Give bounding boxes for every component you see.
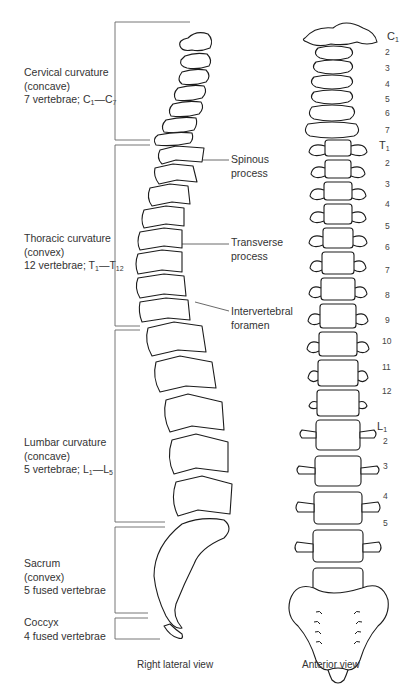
anterior-coccyx [328,668,348,683]
label-t7: 7 [385,265,390,275]
anterior-lumbar [313,420,363,594]
label-l3: 3 [383,461,388,471]
label-t12: 12 [382,386,391,396]
thoracic-vertebrae [136,146,204,322]
label-t4: 4 [385,199,390,209]
label-c6: 6 [385,108,390,118]
label-c2: 2 [385,47,390,57]
anterior-sacrum [289,586,388,670]
label-l1: L1 [377,420,387,433]
lumbar-vertebrae [147,322,232,516]
lateral-sacrum [154,519,229,629]
lateral-view-caption: Right lateral view [137,659,213,670]
spine-illustration [0,0,410,687]
label-t9: 9 [385,315,390,325]
label-t3: 3 [385,179,390,189]
label-t2: 2 [385,158,390,168]
label-l2: 2 [383,436,388,446]
anterior-view-caption: Anterior view [302,659,360,670]
anterior-spine [289,23,388,683]
anterior-thoracic [317,140,359,416]
label-t5: 5 [385,221,390,231]
label-t8: 8 [385,290,390,300]
label-c5: 5 [385,94,390,104]
label-c1: C1 [387,30,399,43]
label-c3: 3 [385,63,390,73]
label-l5: 5 [383,518,388,528]
label-c7: 7 [385,125,390,135]
label-t10: 10 [382,336,391,346]
label-t11: 11 [382,362,391,372]
atlas-c1 [303,23,377,46]
label-l4: 4 [383,491,388,501]
label-c4: 4 [385,79,390,89]
lateral-spine [136,33,232,639]
label-t6: 6 [385,242,390,252]
label-t1: T1 [379,139,390,152]
